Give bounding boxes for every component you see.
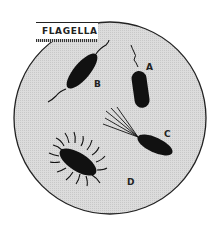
flagella-diagram: A B C D: [0, 0, 221, 231]
microscope-field: [14, 22, 206, 214]
title-hatch: [36, 39, 98, 42]
title-label-box: FLAGELLA: [36, 22, 98, 40]
label-c: C: [164, 129, 171, 139]
label-b: B: [94, 79, 101, 89]
label-a: A: [146, 62, 153, 72]
title-label: FLAGELLA: [42, 26, 98, 36]
label-d: D: [127, 177, 134, 187]
